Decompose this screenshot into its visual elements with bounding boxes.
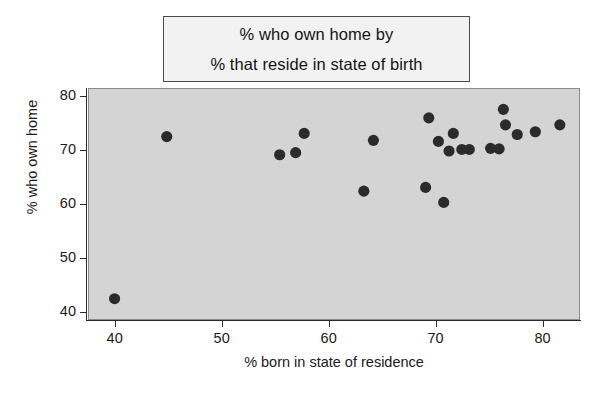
y-axis-tick-label: 80: [46, 87, 76, 103]
chart-title-line-2: % that reside in state of birth: [210, 49, 422, 79]
y-axis-tick: [80, 150, 86, 151]
scatter-plot-figure: % who own home by % that reside in state…: [0, 0, 591, 402]
chart-title-box: % who own home by % that reside in state…: [163, 16, 470, 82]
y-axis-line: [86, 88, 87, 321]
x-axis-tick: [222, 321, 223, 327]
x-axis-tick: [436, 321, 437, 327]
y-axis-tick: [80, 96, 86, 97]
data-point: [530, 126, 541, 137]
data-point: [109, 293, 120, 304]
data-point: [423, 112, 434, 123]
x-axis-tick: [329, 321, 330, 327]
data-point: [554, 119, 565, 130]
data-point: [464, 144, 475, 155]
y-axis-tick: [80, 258, 86, 259]
data-point: [368, 135, 379, 146]
data-point: [274, 149, 285, 160]
data-point: [494, 143, 505, 154]
data-point: [433, 136, 444, 147]
x-axis-tick: [115, 321, 116, 327]
data-point: [443, 145, 454, 156]
y-axis-tick: [80, 204, 86, 205]
x-axis-title: % born in state of residence: [88, 354, 580, 370]
plot-area: [88, 88, 580, 320]
x-axis-tick-label: 70: [413, 330, 459, 346]
x-axis-tick-label: 80: [520, 330, 566, 346]
y-axis-tick-label: 70: [46, 141, 76, 157]
data-point: [420, 182, 431, 193]
data-point: [500, 119, 511, 130]
data-point: [438, 197, 449, 208]
data-points-layer: [89, 89, 579, 319]
y-axis-tick-label: 40: [46, 303, 76, 319]
x-axis-tick: [543, 321, 544, 327]
data-point: [290, 147, 301, 158]
x-axis-tick-label: 40: [92, 330, 138, 346]
data-point: [498, 104, 509, 115]
chart-title-line-1: % who own home by: [240, 19, 394, 49]
x-axis-tick-label: 50: [199, 330, 245, 346]
data-point: [299, 128, 310, 139]
data-point: [512, 129, 523, 140]
y-axis-tick-label: 60: [46, 195, 76, 211]
x-axis-tick-label: 60: [306, 330, 352, 346]
x-axis-line: [86, 320, 581, 321]
data-point: [358, 186, 369, 197]
y-axis-title: % who own home: [24, 62, 40, 252]
y-axis-tick: [80, 312, 86, 313]
y-axis-tick-label: 50: [46, 249, 76, 265]
data-point: [161, 131, 172, 142]
data-point: [448, 128, 459, 139]
